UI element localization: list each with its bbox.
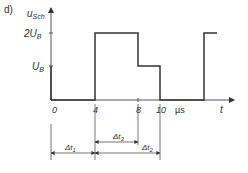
tick-x-10: 10: [156, 105, 166, 115]
waveform: [51, 33, 217, 100]
tick-2UB: 2UB: [23, 28, 42, 40]
interval-dt2-label: Δt2: [141, 143, 154, 153]
unit-label: µs: [175, 105, 185, 115]
tick-x-8: 8: [136, 105, 141, 115]
tick-x-4: 4: [93, 105, 98, 115]
interval-dt3-label: Δt3: [112, 132, 125, 142]
x-axis-label: t: [220, 104, 224, 115]
figure-label: d): [4, 4, 13, 15]
tick-x-0: 0: [52, 105, 57, 115]
tick-UB: UB: [32, 61, 44, 73]
y-axis-label: uSch: [27, 8, 45, 20]
waveform-diagram: d) uSch 2UB UB 0 4 8 10 µs t Δt3 Δt1 Δt2: [0, 0, 248, 173]
interval-dt1-label: Δt1: [64, 143, 76, 153]
